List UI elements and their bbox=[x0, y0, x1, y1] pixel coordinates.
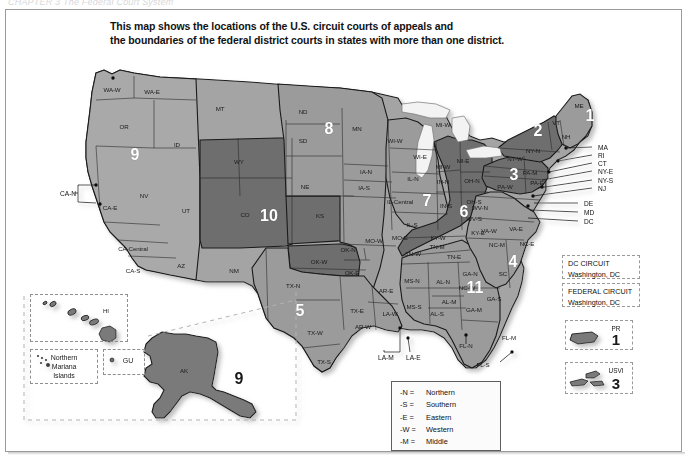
circuit-number: 2 bbox=[534, 122, 543, 140]
federal-circuit-city: Washington, DC bbox=[568, 298, 634, 307]
abbreviation-row: -S =Southern bbox=[400, 399, 500, 411]
abbreviation-value-text: Eastern bbox=[426, 413, 451, 422]
abbreviation-key-text: -E = bbox=[400, 412, 426, 424]
abbreviation-row: -N =Northern bbox=[400, 387, 500, 399]
circuit-number: 3 bbox=[510, 166, 519, 184]
abbreviation-value-text: Western bbox=[426, 425, 453, 434]
puerto-rico-box bbox=[565, 320, 633, 350]
callout-label: CA-N bbox=[60, 190, 76, 197]
callout-label: LA-E bbox=[406, 354, 421, 361]
circuit-number: 4 bbox=[509, 253, 518, 271]
callout-label: CT bbox=[598, 160, 607, 167]
callout-label: DC bbox=[584, 218, 594, 225]
circuit-number: 11 bbox=[467, 279, 484, 297]
callout-label: LA-M bbox=[378, 354, 394, 361]
callout-label: RI bbox=[598, 152, 605, 159]
circuit-number: 9 bbox=[131, 146, 140, 164]
callout-label: NY-S bbox=[598, 177, 613, 184]
abbreviation-value-text: Southern bbox=[426, 400, 456, 409]
guam-inset bbox=[103, 349, 145, 375]
abbreviation-key-text: -S = bbox=[400, 399, 426, 411]
puerto-rico-circuit-number: 1 bbox=[612, 331, 620, 348]
circuit-number: 8 bbox=[325, 120, 334, 138]
hawaii-inset bbox=[30, 294, 128, 342]
abbreviation-row: -W =Western bbox=[400, 424, 500, 436]
callout-label: DE bbox=[584, 200, 593, 207]
dc-circuit-legend: DC CIRCUITWashington, DC bbox=[562, 255, 640, 279]
callout-label: MD bbox=[584, 209, 594, 216]
map-page: CHAPTER 3 The Federal Court System This … bbox=[0, 0, 687, 463]
abbreviation-key-text: -W = bbox=[400, 424, 426, 436]
federal-circuit-legend: FEDERAL CIRCUITWashington, DC bbox=[562, 283, 640, 307]
circuit-number: 1 bbox=[586, 107, 595, 125]
callout-label: NJ bbox=[598, 185, 606, 192]
dc-circuit-city: Washington, DC bbox=[568, 270, 634, 279]
abbreviation-key-text: -M = bbox=[400, 436, 426, 448]
callout-label: NY-E bbox=[598, 168, 613, 175]
abbreviation-row: -M =Middle bbox=[400, 436, 500, 448]
circuit-number: 7 bbox=[423, 192, 432, 210]
abbreviation-row: -E =Eastern bbox=[400, 412, 500, 424]
dc-circuit-title: DC CIRCUIT bbox=[568, 259, 634, 268]
usvi-tag: USVI bbox=[609, 367, 624, 374]
usvi-circuit-number: 3 bbox=[612, 375, 620, 392]
circuit-9-region bbox=[86, 70, 200, 280]
circuit-10-region bbox=[200, 138, 292, 248]
mariana-islands-inset bbox=[30, 349, 98, 384]
circuit-number: 6 bbox=[460, 203, 469, 221]
circuit-number: 10 bbox=[260, 207, 278, 225]
federal-circuit-title: FEDERAL CIRCUIT bbox=[568, 287, 634, 296]
abbreviation-value-text: Northern bbox=[426, 388, 455, 397]
abbreviation-key-text: -N = bbox=[400, 387, 426, 399]
abbreviation-key: -N =Northern-S =Southern-E =Eastern-W =W… bbox=[391, 381, 501, 451]
callout-label: MA bbox=[598, 144, 608, 151]
abbreviation-value-text: Middle bbox=[426, 437, 448, 446]
circuit-number: 9 bbox=[235, 370, 244, 388]
circuit-number: 5 bbox=[296, 302, 305, 320]
